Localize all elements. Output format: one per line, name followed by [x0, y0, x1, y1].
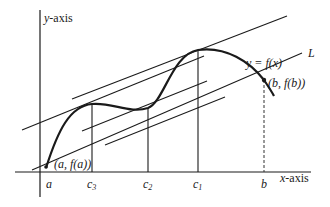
point-b-dot — [262, 78, 266, 82]
x-axis-label: x-axis — [279, 171, 309, 185]
curve-label: y = f(x) — [245, 56, 282, 70]
y-axis-label: y-axis — [43, 11, 73, 25]
mvt-diagram: y-axis x-axis y = f(x) L (a, f(a)) (b, f… — [0, 0, 330, 207]
tick-label-c3: c3 — [87, 177, 96, 192]
point-b-label: (b, f(b)) — [268, 76, 305, 90]
tick-label-c2: c2 — [143, 177, 152, 192]
tick-label-a: a — [46, 177, 52, 191]
function-curve — [46, 49, 274, 168]
point-a-label: (a, f(a)) — [54, 157, 91, 171]
point-a-dot — [44, 165, 48, 169]
line-label-L: L — [307, 46, 315, 60]
tick-label-b: b — [261, 177, 267, 191]
tick-label-c1: c1 — [193, 177, 202, 192]
tangent-line-c2 — [82, 81, 207, 131]
parallel-line-lower — [105, 97, 225, 145]
